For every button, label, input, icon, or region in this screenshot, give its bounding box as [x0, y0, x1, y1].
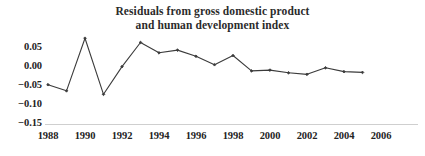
data-point	[213, 63, 216, 66]
data-point	[269, 69, 272, 72]
x-tick-label-2004: 2004	[324, 130, 364, 141]
x-tick-label-1988: 1988	[28, 130, 68, 141]
y-tick-label-2: −0.05	[2, 79, 42, 90]
data-point	[84, 37, 87, 40]
data-point	[361, 71, 364, 74]
x-tick-label-2006: 2006	[361, 130, 401, 141]
data-point	[306, 73, 309, 76]
data-point	[287, 71, 290, 74]
y-tick-label-3: −0.10	[2, 98, 42, 109]
y-tick-label-0: 0.05	[2, 41, 42, 52]
data-point	[139, 41, 142, 44]
data-point	[343, 70, 346, 73]
data-point	[102, 93, 105, 96]
x-tick-label-1996: 1996	[176, 130, 216, 141]
series-line	[48, 38, 363, 94]
data-point	[176, 49, 179, 52]
data-point	[195, 55, 198, 58]
x-tick-label-1994: 1994	[139, 130, 179, 141]
x-tick-label-1990: 1990	[65, 130, 105, 141]
data-series-residuals	[47, 37, 364, 96]
x-tick-label-2002: 2002	[287, 130, 327, 141]
data-point	[121, 65, 124, 68]
chart-figure: Residuals from gross domestic product an…	[0, 0, 425, 156]
data-point	[65, 89, 68, 92]
x-tick-label-2000: 2000	[250, 130, 290, 141]
data-point	[47, 83, 50, 86]
y-tick-label-1: 0.00	[2, 60, 42, 71]
data-point	[158, 51, 161, 54]
y-tick-label-4: −0.15	[2, 117, 42, 128]
x-tick-label-1992: 1992	[102, 130, 142, 141]
data-point	[250, 70, 253, 73]
data-point	[232, 54, 235, 57]
x-tick-label-1998: 1998	[213, 130, 253, 141]
data-point	[324, 66, 327, 69]
